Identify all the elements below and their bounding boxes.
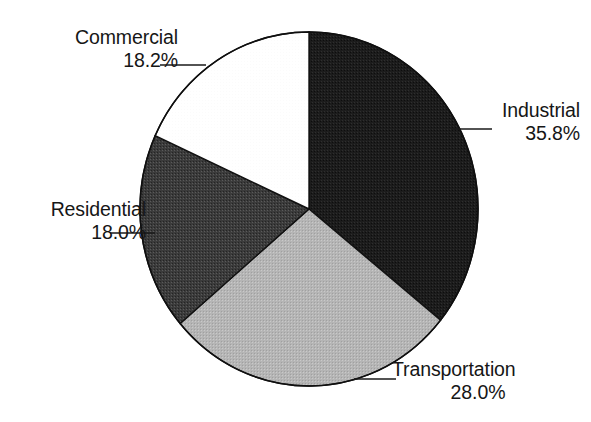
pie-label-transportation: Transportation 28.0% — [392, 358, 582, 404]
pie-label-industrial-value: 35.8% — [480, 122, 580, 145]
pie-label-commercial-value: 18.2% — [28, 49, 178, 72]
pie-label-commercial-name: Commercial — [28, 26, 178, 49]
pie-label-industrial: Industrial 35.8% — [480, 99, 580, 145]
pie-label-commercial: Commercial 18.2% — [28, 26, 178, 72]
pie-label-residential-name: Residential — [6, 198, 146, 221]
pie-label-transportation-name: Transportation — [392, 358, 582, 381]
pie-chart-figure: Commercial 18.2% Industrial 35.8% Reside… — [0, 0, 591, 422]
pie-label-residential: Residential 18.0% — [6, 198, 146, 244]
pie-label-transportation-value: 28.0% — [392, 381, 564, 404]
pie-label-residential-value: 18.0% — [6, 221, 146, 244]
pie-label-industrial-name: Industrial — [480, 99, 580, 122]
